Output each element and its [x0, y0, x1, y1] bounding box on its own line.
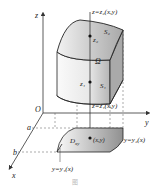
omega-label: Ω [95, 57, 101, 66]
z-axis-label: z [34, 11, 39, 20]
b-label: b [13, 148, 17, 157]
y-axis-label: y [144, 118, 149, 127]
figure-caption: 图 [72, 179, 78, 186]
domain-dxy [57, 128, 123, 152]
z1-point [88, 80, 91, 83]
z2-label: z₂ [92, 36, 99, 44]
diagram-canvas: z y x O a b z=z₂(x,y) z=z₁(x,y) S₂ S₁ z₂… [0, 0, 161, 187]
s2-label: S₂ [104, 28, 111, 36]
x-axis [10, 113, 43, 168]
lower-curve-label: y=y₁(x) [51, 165, 74, 173]
top-surface-equation: z=z₂(x,y) [91, 8, 118, 16]
bottom-surface-equation: z=z₁(x,y) [91, 102, 118, 110]
xy-point-label: (x,y) [93, 136, 105, 144]
z1-label: z₁ [79, 80, 85, 88]
upper-curve-label: y=y₂(x) [123, 136, 146, 144]
s1-label: S₁ [100, 82, 106, 90]
origin-label: O [35, 105, 41, 114]
xy-point [88, 136, 91, 139]
x-axis-label: x [11, 171, 16, 180]
a-label: a [27, 123, 31, 132]
z2-point [88, 34, 91, 37]
